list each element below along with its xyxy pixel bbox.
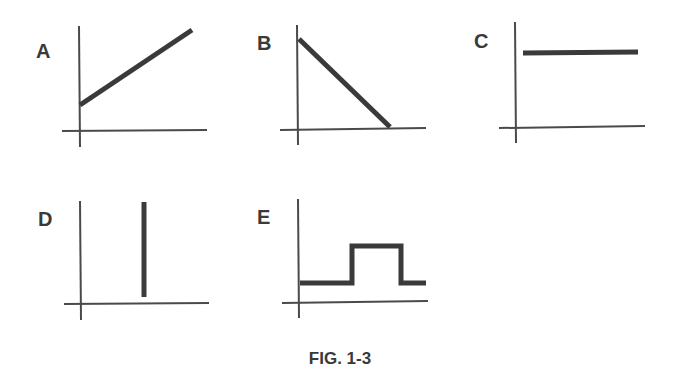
panel-b-y-axis bbox=[297, 25, 298, 145]
figure-caption: FIG. 1-3 bbox=[309, 349, 371, 368]
panel-c-label: C bbox=[474, 30, 488, 52]
panel-b-label: B bbox=[257, 32, 271, 54]
panel-c: C bbox=[474, 22, 645, 143]
panel-c-x-axis bbox=[499, 126, 645, 128]
panel-c-horizontal-line bbox=[523, 52, 638, 53]
panel-a: A bbox=[36, 26, 207, 147]
panel-c-y-axis bbox=[515, 22, 516, 143]
panel-e-y-axis bbox=[298, 199, 299, 318]
panel-e: E bbox=[257, 199, 428, 318]
figure-canvas: A B C D E FIG. 1-3 bbox=[0, 0, 680, 391]
panel-e-x-axis bbox=[282, 301, 428, 303]
panel-a-y-axis bbox=[79, 26, 80, 147]
panel-b-x-axis bbox=[280, 128, 426, 130]
panel-d-y-axis bbox=[80, 201, 81, 320]
panel-a-x-axis bbox=[62, 130, 207, 131]
panel-b: B bbox=[257, 25, 426, 145]
panel-e-label: E bbox=[257, 206, 270, 228]
panel-d-label: D bbox=[38, 208, 52, 230]
panel-b-falling-line bbox=[299, 39, 390, 127]
panel-d: D bbox=[38, 201, 209, 320]
panel-e-step-pulse bbox=[300, 246, 426, 283]
panel-a-rising-line bbox=[80, 30, 192, 105]
panel-a-label: A bbox=[36, 40, 50, 62]
panel-d-x-axis bbox=[64, 303, 209, 304]
